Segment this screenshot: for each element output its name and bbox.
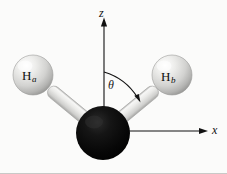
theta-angle-label: θ: [108, 78, 114, 93]
hydrogen-a-label: Ha: [22, 69, 36, 84]
molecule-figure: z x θ Ha Hb: [0, 0, 227, 174]
hydrogen-a-subscript: a: [32, 74, 37, 84]
hydrogen-a-symbol: H: [22, 68, 31, 83]
x-axis-label: x: [212, 124, 217, 136]
hydrogen-b-label: Hb: [161, 70, 175, 85]
central-atom: [76, 106, 130, 160]
hydrogen-b-subscript: b: [171, 75, 176, 85]
hydrogen-b-symbol: H: [161, 69, 170, 84]
z-axis-label: z: [99, 7, 104, 19]
